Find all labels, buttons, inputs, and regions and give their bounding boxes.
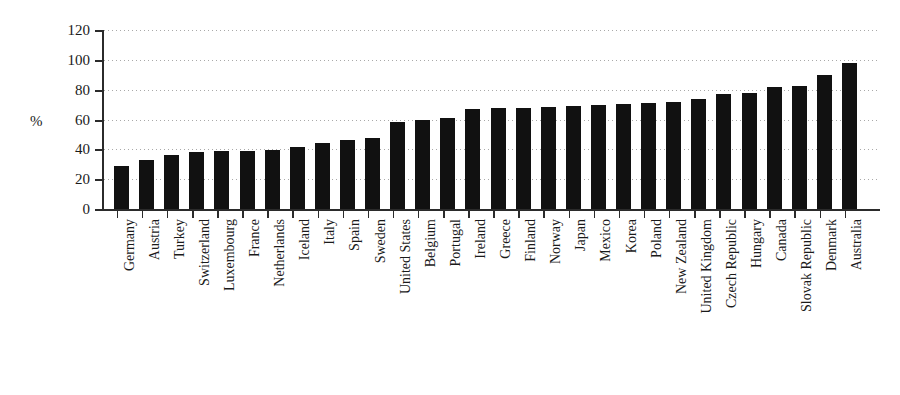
x-axis-category-labels: GermanyAustriaTurkeySwitzerlandLuxembour… bbox=[102, 219, 880, 369]
bar-slot bbox=[587, 30, 612, 209]
bar-slot bbox=[286, 30, 311, 209]
x-tick-mark bbox=[468, 211, 470, 218]
x-tick-mark bbox=[769, 211, 771, 218]
x-axis-label: Spain bbox=[348, 219, 362, 251]
y-tick-label: 80 bbox=[75, 81, 90, 98]
bar-slot bbox=[763, 30, 788, 209]
x-tick-mark bbox=[694, 211, 696, 218]
bar bbox=[792, 86, 807, 209]
bar bbox=[139, 160, 154, 209]
x-tick-mark bbox=[393, 211, 395, 218]
x-axis-label: Portugal bbox=[449, 219, 463, 266]
x-tick-mark bbox=[192, 211, 194, 218]
x-axis-label: Australia bbox=[850, 219, 864, 270]
x-axis-label: Luxembourg bbox=[223, 219, 237, 291]
bar bbox=[691, 99, 706, 209]
bar-slot bbox=[562, 30, 587, 209]
bar bbox=[114, 166, 129, 209]
x-axis-label: Poland bbox=[650, 219, 664, 258]
x-tick-mark bbox=[418, 211, 420, 218]
x-tick-mark bbox=[820, 211, 822, 218]
x-axis-label: Iceland bbox=[298, 219, 312, 260]
y-tick-mark bbox=[95, 120, 104, 122]
bar bbox=[240, 151, 255, 209]
bar bbox=[566, 106, 581, 209]
bar bbox=[541, 107, 556, 209]
x-tick-mark bbox=[669, 211, 671, 218]
x-axis-label: Italy bbox=[323, 219, 337, 245]
x-tick-mark bbox=[142, 211, 144, 218]
x-tick-mark bbox=[619, 211, 621, 218]
y-tick-mark bbox=[95, 179, 104, 181]
bar-slot bbox=[185, 30, 210, 209]
y-tick-label: 120 bbox=[68, 22, 91, 39]
bar-slot bbox=[838, 30, 863, 209]
bar-slot bbox=[436, 30, 461, 209]
bar bbox=[390, 122, 405, 209]
x-axis-label: Ireland bbox=[474, 219, 488, 259]
bar-slot bbox=[687, 30, 712, 209]
x-axis-label: Netherlands bbox=[273, 219, 287, 287]
x-axis-label: Finland bbox=[524, 219, 538, 262]
bar bbox=[465, 109, 480, 209]
bar bbox=[415, 120, 430, 210]
bar bbox=[641, 103, 656, 209]
x-axis-label: Canada bbox=[775, 219, 789, 261]
x-tick-mark bbox=[794, 211, 796, 218]
bar-series bbox=[104, 30, 880, 209]
x-tick-mark bbox=[719, 211, 721, 218]
bar bbox=[842, 63, 857, 209]
plot-area: 020406080100120 bbox=[102, 30, 880, 211]
bar bbox=[516, 108, 531, 209]
y-axis-unit-label: % bbox=[30, 113, 43, 130]
bar-slot bbox=[160, 30, 185, 209]
y-tick-mark bbox=[95, 149, 104, 151]
x-tick-mark bbox=[493, 211, 495, 218]
x-axis-label: United States bbox=[399, 219, 413, 294]
x-axis-line bbox=[102, 209, 880, 211]
bar-slot bbox=[261, 30, 286, 209]
x-tick-mark bbox=[217, 211, 219, 218]
bar bbox=[666, 102, 681, 209]
bar-slot bbox=[537, 30, 562, 209]
y-tick-mark bbox=[95, 209, 104, 211]
x-axis-label: Sweden bbox=[374, 219, 388, 263]
bar-slot bbox=[662, 30, 687, 209]
x-axis-label: Korea bbox=[625, 219, 639, 253]
x-tick-mark bbox=[518, 211, 520, 218]
x-axis-label: New Zealand bbox=[675, 219, 689, 294]
bar-slot bbox=[788, 30, 813, 209]
x-tick-mark bbox=[242, 211, 244, 218]
bar-slot bbox=[386, 30, 411, 209]
x-tick-mark bbox=[368, 211, 370, 218]
bar-slot bbox=[110, 30, 135, 209]
x-tick-mark bbox=[744, 211, 746, 218]
bar bbox=[440, 118, 455, 209]
y-tick-mark bbox=[95, 90, 104, 92]
x-axis-label: Hungary bbox=[750, 219, 764, 268]
x-tick-mark bbox=[318, 211, 320, 218]
bar bbox=[265, 150, 280, 209]
y-tick-mark bbox=[95, 60, 104, 62]
bar bbox=[491, 108, 506, 209]
x-axis-label: France bbox=[248, 219, 262, 257]
bar bbox=[290, 147, 305, 209]
x-axis-label: Turkey bbox=[173, 219, 187, 259]
bar-slot bbox=[612, 30, 637, 209]
y-tick-label: 0 bbox=[83, 201, 91, 218]
bar bbox=[315, 143, 330, 209]
x-axis-label: Czech Republic bbox=[725, 219, 739, 308]
y-tick-label: 40 bbox=[75, 141, 90, 158]
bar bbox=[591, 105, 606, 209]
bar-slot bbox=[738, 30, 763, 209]
bar-slot bbox=[487, 30, 512, 209]
x-tick-mark bbox=[117, 211, 119, 218]
x-tick-mark bbox=[443, 211, 445, 218]
x-tick-mark bbox=[343, 211, 345, 218]
x-axis-label: Switzerland bbox=[198, 219, 212, 286]
bar bbox=[189, 152, 204, 209]
bar-slot bbox=[210, 30, 235, 209]
bar bbox=[616, 104, 631, 209]
x-axis-label: United Kingdom bbox=[700, 219, 714, 314]
bar bbox=[742, 93, 757, 209]
